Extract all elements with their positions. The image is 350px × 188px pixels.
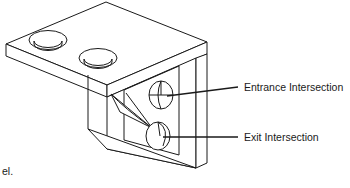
exit-hole-group [146, 122, 170, 150]
exit-intersection-label: Exit Intersection [244, 131, 319, 143]
caption-text-fragment: el. [2, 165, 13, 177]
technical-drawing-figure: Entrance Intersection Exit Intersection … [0, 0, 350, 188]
bracket-drawing: Entrance Intersection Exit Intersection … [0, 0, 350, 188]
entrance-intersection-label: Entrance Intersection [244, 81, 343, 93]
vertical-plate-right-edge-face [196, 54, 207, 168]
exit-hole-outer-edge [146, 122, 170, 150]
entrance-hole-group [149, 81, 173, 109]
